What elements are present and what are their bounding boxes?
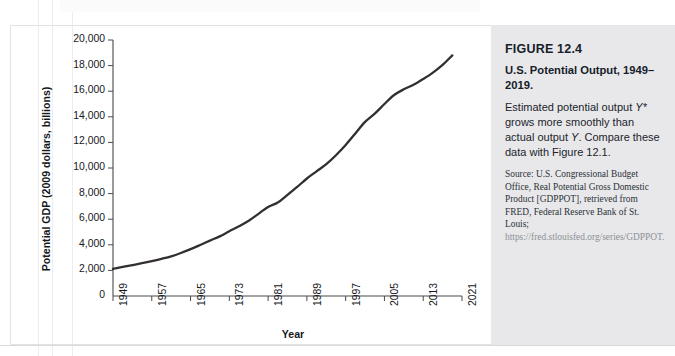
x-tick-label: 1973	[234, 283, 245, 306]
figure-caption-panel: FIGURE 12.4 U.S. Potential Output, 1949–…	[491, 25, 675, 345]
potential-gdp-line	[113, 55, 452, 268]
y-tick-label: 18,000	[47, 59, 105, 70]
y-tick-label: 14,000	[47, 110, 105, 121]
figure-title: U.S. Potential Output, 1949–2019.	[505, 63, 661, 93]
x-tick-label: 2021	[467, 283, 478, 306]
x-tick-label: 1989	[312, 283, 323, 306]
x-tick-label: 1949	[118, 283, 129, 306]
y-tick-label: 2,000	[47, 263, 105, 274]
source-url[interactable]: https://fred.stlouisfed.org/series/GDPPO…	[505, 232, 664, 242]
figure-description: Estimated potential output Y* grows more…	[505, 100, 661, 161]
desc-segment-1: Estimated potential output	[505, 101, 635, 113]
x-tick-label: 1965	[196, 283, 207, 306]
figure-source: Source: U.S. Congressional Budget Office…	[505, 168, 661, 243]
x-tick-label: 2005	[389, 283, 400, 306]
chart-area: Potential GDP (2009 dollars, billions) Y…	[10, 25, 491, 345]
figure-number: FIGURE 12.4	[505, 42, 661, 56]
y-tick-label: 0	[47, 289, 105, 300]
x-tick-label: 2013	[428, 283, 439, 306]
figure-bottom-rule	[0, 345, 675, 346]
desc-italic-y-star: Y*	[635, 101, 647, 113]
y-tick-label: 10,000	[47, 161, 105, 172]
x-tick-label: 1997	[351, 283, 362, 306]
x-tick-label: 1957	[157, 283, 168, 306]
y-tick-label: 20,000	[47, 33, 105, 44]
y-tick-label: 4,000	[47, 238, 105, 249]
y-tick-label: 12,000	[47, 135, 105, 146]
y-tick-label: 6,000	[47, 212, 105, 223]
x-tick-label: 1981	[273, 283, 284, 306]
tick-marks	[108, 40, 462, 301]
y-tick-label: 16,000	[47, 84, 105, 95]
source-text: Source: U.S. Congressional Budget Office…	[505, 169, 649, 229]
figure-page: Potential GDP (2009 dollars, billions) Y…	[0, 0, 675, 356]
page-bleed-band	[60, 0, 480, 12]
y-tick-label: 8,000	[47, 187, 105, 198]
